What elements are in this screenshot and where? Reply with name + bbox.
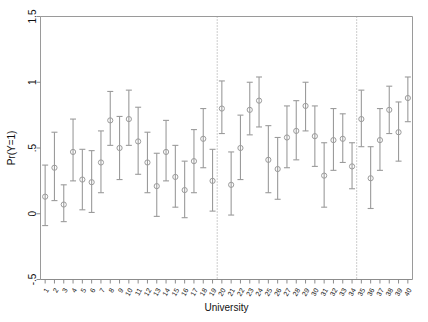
- x-tick-label-7: 7: [98, 287, 106, 294]
- x-axis-tick-labels: 1234567891011121314151617181920212223242…: [42, 287, 413, 297]
- data-point-28: [293, 101, 299, 160]
- x-axis-ticks: [45, 280, 408, 284]
- data-point-10: [126, 90, 132, 145]
- x-tick-label-14: 14: [161, 287, 171, 297]
- data-point-14: [163, 120, 169, 181]
- x-tick-label-21: 21: [226, 287, 236, 297]
- x-tick-label-22: 22: [236, 287, 246, 297]
- x-tick-label-32: 32: [329, 287, 339, 297]
- chart-figure: -.50.511.5 12345678910111213141516171819…: [0, 0, 428, 322]
- data-point-4: [70, 119, 76, 181]
- x-tick-label-3: 3: [61, 287, 69, 294]
- data-point-17: [191, 130, 197, 193]
- data-point-12: [144, 132, 150, 192]
- x-tick-label-18: 18: [198, 287, 208, 297]
- data-series: [42, 77, 411, 226]
- data-point-30: [312, 106, 318, 166]
- x-tick-label-16: 16: [180, 287, 190, 297]
- y-tick-label-3: 1: [27, 79, 38, 85]
- data-point-5: [79, 149, 85, 210]
- x-tick-label-25: 25: [263, 287, 273, 297]
- data-point-13: [154, 153, 160, 216]
- data-point-23: [247, 82, 253, 135]
- data-point-9: [117, 116, 123, 179]
- x-tick-label-28: 28: [291, 287, 301, 297]
- data-point-25: [265, 126, 271, 193]
- y-tick-label-2: .5: [27, 143, 38, 152]
- data-point-24: [256, 77, 262, 127]
- x-tick-label-27: 27: [282, 287, 292, 297]
- y-tick-label-0: -.5: [27, 273, 38, 285]
- data-point-34: [349, 143, 355, 189]
- y-tick-label-4: 1.5: [27, 9, 38, 23]
- data-point-15: [172, 145, 178, 207]
- data-point-18: [200, 109, 206, 168]
- data-point-19: [210, 149, 216, 211]
- x-tick-label-6: 6: [89, 287, 97, 294]
- x-tick-label-40: 40: [403, 287, 413, 297]
- x-tick-label-26: 26: [273, 287, 283, 297]
- x-tick-label-33: 33: [338, 287, 348, 297]
- y-axis-title: Pr(Y=1): [6, 131, 17, 166]
- data-point-29: [303, 82, 309, 131]
- data-point-38: [386, 86, 392, 133]
- x-tick-label-23: 23: [245, 287, 255, 297]
- data-point-40: [405, 77, 411, 122]
- data-point-3: [61, 185, 67, 222]
- data-point-21: [228, 152, 234, 215]
- data-point-8: [107, 91, 113, 145]
- x-axis-title: University: [205, 302, 249, 313]
- x-tick-label-34: 34: [347, 287, 357, 297]
- x-tick-label-38: 38: [384, 287, 394, 297]
- data-point-39: [396, 102, 402, 161]
- data-point-32: [330, 109, 336, 171]
- x-tick-label-5: 5: [79, 287, 87, 294]
- y-axis-tick-labels: -.50.511.5: [27, 9, 38, 285]
- x-tick-label-37: 37: [375, 287, 385, 297]
- coefficient-plot-svg: -.50.511.5 12345678910111213141516171819…: [0, 0, 428, 322]
- data-point-2: [51, 132, 57, 200]
- data-point-11: [135, 107, 141, 174]
- x-tick-label-31: 31: [319, 287, 329, 297]
- data-point-31: [321, 143, 327, 207]
- x-tick-label-35: 35: [356, 287, 366, 297]
- data-point-37: [377, 109, 383, 171]
- x-tick-label-15: 15: [170, 287, 180, 297]
- x-tick-label-36: 36: [366, 287, 376, 297]
- x-tick-label-1: 1: [42, 287, 50, 294]
- data-point-36: [368, 147, 374, 209]
- x-tick-label-11: 11: [133, 287, 143, 297]
- data-point-26: [275, 137, 281, 199]
- data-point-27: [284, 106, 290, 168]
- x-tick-label-19: 19: [208, 287, 218, 297]
- data-point-20: [219, 81, 225, 134]
- x-tick-label-29: 29: [301, 287, 311, 297]
- y-tick-label-1: 0: [27, 211, 38, 217]
- x-tick-label-13: 13: [152, 287, 162, 297]
- x-tick-label-30: 30: [310, 287, 320, 297]
- x-tick-label-24: 24: [254, 287, 264, 297]
- x-tick-label-10: 10: [124, 287, 134, 297]
- x-tick-label-20: 20: [217, 287, 227, 297]
- data-point-22: [237, 115, 243, 179]
- x-tick-label-4: 4: [70, 287, 78, 294]
- x-tick-label-39: 39: [394, 287, 404, 297]
- data-point-33: [340, 114, 346, 163]
- data-point-7: [98, 131, 104, 193]
- data-point-6: [89, 151, 95, 213]
- data-point-1: [42, 165, 48, 225]
- x-tick-label-17: 17: [189, 287, 199, 297]
- data-point-35: [358, 90, 364, 147]
- x-tick-label-2: 2: [51, 287, 59, 294]
- data-point-16: [182, 161, 188, 218]
- x-tick-label-12: 12: [143, 287, 153, 297]
- x-tick-label-8: 8: [107, 287, 115, 294]
